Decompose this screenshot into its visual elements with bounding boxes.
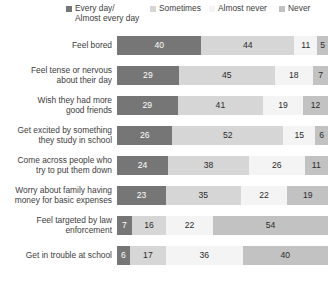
legend-swatch-every-day: [66, 6, 72, 12]
chart-row-label-line2: good friends: [0, 105, 112, 115]
chart-bar-segment[interactable]: 29: [117, 66, 179, 85]
chart-bar-segment[interactable]: 22: [166, 216, 213, 235]
chart-row: Feel targeted by lawenforcement7162254: [0, 210, 328, 240]
chart-bar-value: 29: [143, 101, 153, 110]
chart-bar-segment[interactable]: 6: [315, 126, 328, 145]
chart-row-label-line2: enforcement: [0, 225, 112, 235]
chart-bar-segment[interactable]: 29: [117, 96, 178, 115]
chart-bar-segment[interactable]: 41: [178, 96, 264, 115]
chart-bar-segment[interactable]: 6: [117, 246, 130, 265]
chart-bar-segment[interactable]: 19: [287, 186, 327, 205]
chart-bar-segment[interactable]: 19: [263, 96, 303, 115]
legend-item-never[interactable]: Never: [279, 3, 310, 13]
legend-swatch-sometimes: [150, 6, 156, 12]
legend-swatch-never: [279, 6, 285, 12]
chart-row: Feel tense or nervousabout their day2945…: [0, 60, 328, 90]
chart-row-label: Feel bored: [0, 40, 117, 50]
chart-bar-value: 11: [312, 161, 321, 170]
chart-bar-value: 6: [121, 251, 126, 260]
chart-row-label-line1: Feel targeted by law: [37, 215, 112, 225]
chart-bar: 4044115: [117, 36, 328, 55]
chart-bar-segment[interactable]: 26: [249, 156, 304, 175]
chart-bar-segment[interactable]: 52: [172, 126, 283, 145]
chart-bar-segment[interactable]: 44: [201, 36, 294, 55]
chart-bar-segment[interactable]: 15: [283, 126, 315, 145]
chart-row-label-line1: Feel tense or nervous: [31, 65, 112, 75]
chart-bar-segment[interactable]: 54: [213, 216, 328, 235]
chart-bar: 24382611: [117, 156, 328, 175]
legend-label-never: Never: [288, 3, 310, 13]
legend-label-line1: Never: [288, 3, 310, 13]
chart-bar-value: 24: [138, 161, 148, 170]
chart-bar-value: 41: [216, 101, 226, 110]
chart-row-label: Feel tense or nervousabout their day: [0, 65, 117, 85]
chart-bar: 2652156: [117, 126, 328, 145]
chart-bar-segment[interactable]: 38: [168, 156, 249, 175]
chart-bar-segment[interactable]: 24: [117, 156, 168, 175]
chart-row-label-line1: Get in trouble at school: [26, 250, 112, 260]
legend-swatch-almost-never: [209, 6, 215, 12]
chart-bar-value: 7: [318, 71, 323, 80]
chart-bar-value: 22: [185, 221, 195, 230]
chart-bar-value: 22: [259, 191, 269, 200]
chart-row-label: Get in trouble at school: [0, 250, 117, 260]
chart-bar-value: 15: [294, 131, 304, 140]
chart-bar-segment[interactable]: 16: [132, 216, 166, 235]
chart-bar-value: 54: [266, 221, 276, 230]
chart-row-label: Come across people whotry to put them do…: [0, 155, 117, 175]
legend-item-every-day[interactable]: Every day/ Almost every day: [66, 3, 139, 24]
legend-item-sometimes[interactable]: Sometimes: [150, 3, 201, 13]
chart-bar-segment[interactable]: 5: [317, 36, 328, 55]
chart-row-label-line2: money for basic expenses: [0, 195, 112, 205]
legend-label-line2: Almost every day: [75, 13, 139, 23]
chart-bar: 29411912: [117, 96, 328, 115]
chart-row-label-line1: Come across people who: [17, 155, 112, 165]
chart-bar-segment[interactable]: 12: [303, 96, 328, 115]
chart-row-label-line1: Worry about family having: [15, 185, 112, 195]
chart-bar-value: 40: [281, 251, 291, 260]
chart-bar-segment[interactable]: 36: [166, 246, 243, 265]
chart-legend: Every day/ Almost every day Sometimes Al…: [66, 3, 328, 29]
chart-bar-segment[interactable]: 7: [313, 66, 328, 85]
chart-bar-value: 23: [137, 191, 147, 200]
chart-row: Wish they had moregood friends29411912: [0, 90, 328, 120]
chart-bar-value: 19: [303, 191, 313, 200]
chart-bar-value: 29: [143, 71, 153, 80]
legend-item-almost-never[interactable]: Almost never: [209, 3, 267, 13]
chart-bar-value: 26: [272, 161, 282, 170]
chart-bar-segment[interactable]: 17: [130, 246, 166, 265]
chart-bar-value: 36: [200, 251, 210, 260]
chart-bar-segment[interactable]: 11: [305, 156, 328, 175]
stacked-bar-chart: Every day/ Almost every day Sometimes Al…: [0, 0, 328, 298]
chart-row-label: Wish they had moregood friends: [0, 95, 117, 115]
legend-label-every-day: Every day/ Almost every day: [75, 3, 139, 24]
chart-bar-value: 16: [144, 221, 154, 230]
chart-row-label-line2: try to put them down: [0, 165, 112, 175]
chart-bar-segment[interactable]: 22: [241, 186, 288, 205]
chart-bar-segment[interactable]: 40: [243, 246, 328, 265]
chart-bar-segment[interactable]: 40: [117, 36, 201, 55]
chart-bar-value: 35: [199, 191, 209, 200]
chart-bar-value: 45: [222, 71, 232, 80]
chart-bar-value: 5: [320, 41, 325, 50]
legend-label-almost-never: Almost never: [218, 3, 267, 13]
chart-bar-value: 18: [289, 71, 299, 80]
chart-bar-segment[interactable]: 7: [117, 216, 132, 235]
chart-bar-value: 44: [243, 41, 253, 50]
chart-bar: 7162254: [117, 216, 328, 235]
chart-bar-value: 11: [301, 41, 310, 50]
chart-bar-segment[interactable]: 45: [179, 66, 275, 85]
chart-row-label: Worry about family havingmoney for basic…: [0, 185, 117, 205]
chart-row: Worry about family havingmoney for basic…: [0, 180, 328, 210]
chart-row-label-line2: about their day: [0, 75, 112, 85]
chart-rows: Feel bored4044115Feel tense or nervousab…: [0, 30, 328, 270]
chart-bar-segment[interactable]: 23: [117, 186, 166, 205]
chart-row-label-line1: Get excited by something: [17, 125, 112, 135]
chart-bar-segment[interactable]: 26: [117, 126, 172, 145]
legend-label-line1: Every day/: [75, 3, 115, 13]
chart-bar-value: 17: [143, 251, 153, 260]
legend-label-sometimes: Sometimes: [159, 3, 201, 13]
chart-bar-segment[interactable]: 18: [275, 66, 313, 85]
chart-bar-segment[interactable]: 11: [294, 36, 317, 55]
chart-bar-segment[interactable]: 35: [166, 186, 241, 205]
